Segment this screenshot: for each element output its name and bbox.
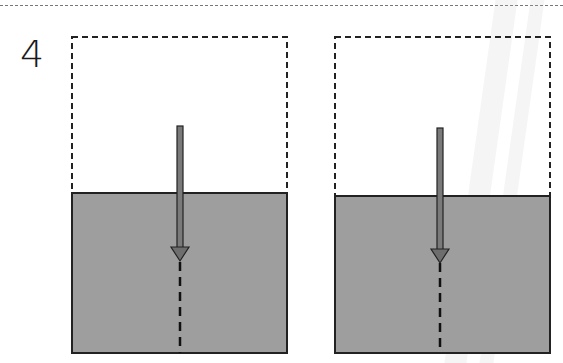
right-arrow-shaft: [437, 128, 443, 250]
diagram-canvas: [0, 0, 563, 363]
left-arrow-shaft: [177, 126, 183, 248]
left-container: [72, 37, 287, 353]
right-container: [335, 37, 550, 353]
